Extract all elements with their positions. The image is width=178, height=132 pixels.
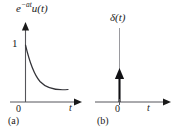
- exponential-decay-curve: [26, 45, 69, 90]
- y-axis-label-a: e−atu(t): [16, 3, 48, 14]
- origin-label-b: 0: [115, 104, 120, 114]
- origin-label-a: 0: [16, 104, 21, 114]
- caption-a: (a): [8, 116, 19, 126]
- x-axis-label-b: t: [147, 103, 150, 113]
- y-axis-label-b: δ(t): [110, 12, 126, 23]
- y-axis-a: [22, 22, 29, 102]
- caption-b: (b): [97, 116, 109, 126]
- panel-a-plot: [0, 0, 89, 132]
- impulse-arrow: [115, 68, 124, 102]
- signal-figure: e−atu(t) 1 0 t (a) δ(t) 0 t (b): [0, 0, 178, 132]
- x-axis-label-a: t: [69, 103, 72, 113]
- x-axis-b: [95, 98, 171, 105]
- panel-b-plot: [89, 0, 178, 132]
- panel-exponential-decay: e−atu(t) 1 0 t (a): [0, 0, 89, 132]
- panel-delta-impulse: δ(t) 0 t (b): [89, 0, 178, 132]
- y-tick-label-one: 1: [12, 38, 18, 49]
